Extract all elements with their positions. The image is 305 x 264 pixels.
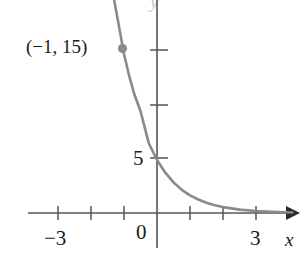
exponential-curve: [109, 0, 292, 212]
data-point-marker: [118, 44, 127, 53]
exponential-decay-graph-figure: (−1, 15) −3 0 3 5 x y: [0, 0, 305, 264]
x-tick-label-neg3: −3: [44, 228, 66, 249]
origin-label: 0: [136, 222, 147, 243]
y-axis-label: y: [150, 0, 158, 11]
x-axis-label: x: [285, 230, 293, 249]
x-tick-label-pos3: 3: [250, 228, 261, 249]
y-tick-label-5: 5: [133, 148, 144, 169]
point-annotation-label: (−1, 15): [26, 37, 87, 56]
